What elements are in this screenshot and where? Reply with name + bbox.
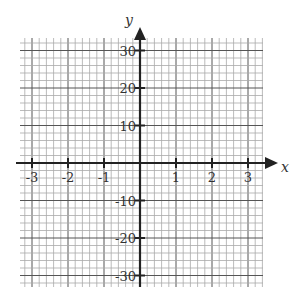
y-tick-label: 30 [119, 44, 136, 59]
coordinate-plane: -3-2-1123302010-10-20-30 x y [0, 0, 307, 299]
x-tick-label: -2 [62, 170, 75, 185]
y-tick-label: -30 [115, 269, 136, 284]
y-axis-label: y [124, 12, 134, 28]
y-tick-label: -20 [115, 231, 136, 246]
x-tick-label: -3 [26, 170, 39, 185]
y-axis-arrow-icon [134, 27, 146, 40]
x-tick-label: 1 [172, 170, 180, 185]
y-tick-label: 10 [119, 119, 136, 134]
x-axis-arrow-icon [265, 157, 278, 169]
x-tick-label: -1 [98, 170, 111, 185]
y-tick-label: 20 [119, 81, 136, 96]
x-tick-label: 3 [244, 170, 252, 185]
y-tick-label: -10 [115, 194, 136, 209]
x-tick-label: 2 [208, 170, 216, 185]
x-axis-label: x [281, 159, 289, 175]
